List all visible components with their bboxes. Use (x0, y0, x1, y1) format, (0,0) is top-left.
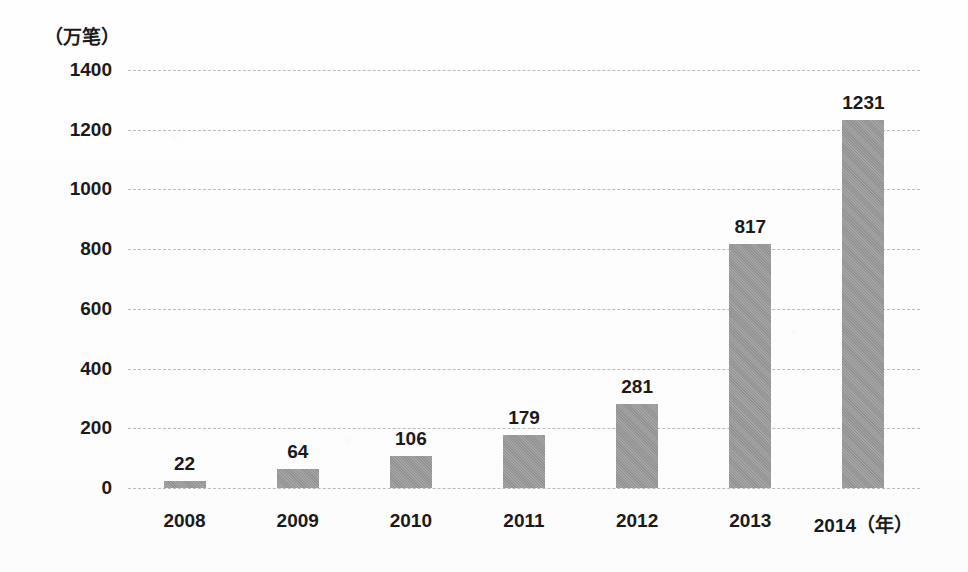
y-axis-tick-label: 800 (80, 238, 112, 260)
bar-value-label: 817 (734, 216, 766, 238)
bar-value-label: 22 (174, 453, 195, 475)
x-axis-tick-label: 2008 (163, 510, 205, 532)
bar-value-label: 106 (395, 428, 427, 450)
bar (164, 481, 206, 488)
bar-value-label: 64 (287, 441, 308, 463)
x-axis-tick-label: 2010 (390, 510, 432, 532)
gridline (128, 488, 920, 489)
x-axis-tick-label: 2012 (616, 510, 658, 532)
bar (842, 120, 884, 488)
y-axis-title: （万笔） (44, 22, 120, 49)
bar (390, 456, 432, 488)
bar-value-label: 179 (508, 407, 540, 429)
bar-group: 8172013 (694, 70, 807, 488)
bar-group: 1792011 (467, 70, 580, 488)
bar (277, 469, 319, 488)
bar (616, 404, 658, 488)
y-axis-tick-label: 1400 (70, 59, 112, 81)
bar (503, 435, 545, 488)
bar-group: 12312014（年） (807, 70, 920, 488)
x-axis-tick-label: 2011 (503, 510, 544, 532)
bars-layer: 2220086420091062010179201128120128172013… (128, 70, 920, 488)
y-axis-tick-label: 1200 (70, 119, 112, 141)
x-axis-tick-label: 2009 (277, 510, 319, 532)
bar-group: 1062010 (354, 70, 467, 488)
x-axis-tick-label: 2014（年） (814, 510, 913, 537)
bar (729, 244, 771, 488)
y-axis-tick-label: 0 (101, 477, 112, 499)
bar-group: 642009 (241, 70, 354, 488)
bar-group: 222008 (128, 70, 241, 488)
plot-area: 0200400600800100012001400 22200864200910… (128, 70, 920, 488)
y-axis-tick-label: 600 (80, 298, 112, 320)
bar-group: 2812012 (581, 70, 694, 488)
y-axis-tick-label: 200 (80, 417, 112, 439)
y-axis-tick-label: 400 (80, 358, 112, 380)
bar-value-label: 1231 (842, 92, 884, 114)
x-axis-tick-label: 2013 (729, 510, 771, 532)
y-axis-tick-label: 1000 (70, 178, 112, 200)
bar-chart: （万笔） 0200400600800100012001400 222008642… (0, 0, 968, 572)
bar-value-label: 281 (621, 376, 653, 398)
